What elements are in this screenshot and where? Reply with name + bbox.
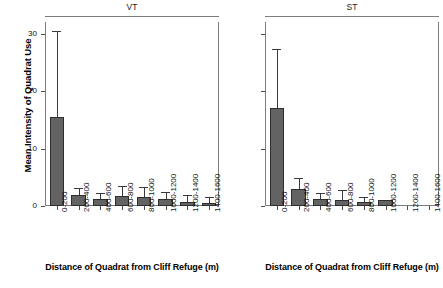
x-tick-800-1000 [364,206,365,210]
x-tick-label-400-600: 400-600 [324,183,333,212]
x-tick-200-400 [79,206,80,210]
y-tick-20 [41,91,45,92]
x-tick-600-800 [122,206,123,210]
panel-st-title: ST [265,2,439,12]
error-bar-stem [57,31,58,117]
error-bar-stem [342,190,343,199]
x-tick-label-1200-1400: 1200-1400 [411,174,420,212]
error-bar-stem [79,188,80,195]
x-tick-1000-1200 [386,206,387,210]
x-tick-600-800 [342,206,343,210]
x-tick-800-1000 [144,206,145,210]
x-tick-1200-1400 [407,206,408,210]
x-tick-1400-1600 [429,206,430,210]
y-axis-title: Mean Intensity of Quadrat Use [22,21,33,191]
error-bar-stem [299,178,300,189]
error-bar-stem [187,195,188,202]
x-tick-label-0-200: 0-200 [60,192,69,212]
y-tick-label-30: 30 [15,29,37,38]
y-tick-0 [261,206,265,207]
x-tick-label-400-600: 400-600 [104,183,113,212]
x-tick-1000-1200 [166,206,167,210]
y-tick-30 [41,34,45,35]
x-tick-label-1000-1200: 1000-1200 [169,174,178,212]
x-tick-0-200 [277,206,278,210]
x-tick-label-800-1000: 800-1000 [367,178,376,212]
x-axis-title-st: Distance of Quadrat from Cliff Refuge (m… [259,262,443,272]
error-bar-stem [122,186,123,196]
y-tick-label-0: 0 [15,201,37,210]
panel-vt-strip-rule [45,16,219,17]
y-tick-10 [261,149,265,150]
x-tick-label-200-400: 200-400 [82,183,91,212]
x-tick-label-800-1000: 800-1000 [147,178,156,212]
x-tick-label-600-800: 600-800 [346,183,355,212]
x-tick-400-600 [320,206,321,210]
x-tick-label-1000-1200: 1000-1200 [389,174,398,212]
x-tick-label-1400-1600: 1400-1600 [213,174,222,212]
chart-figure: Mean Intensity of Quadrat Use VT 0102030… [0,0,443,288]
error-bar-stem [277,49,278,108]
x-tick-label-1200-1400: 1200-1400 [191,174,200,212]
x-tick-1200-1400 [187,206,188,210]
panel-vt-plot-area: 01020300-200200-400400-600600-800800-100… [45,22,219,206]
x-tick-400-600 [100,206,101,210]
panel-vt-title: VT [45,2,219,12]
error-bar-cap [272,49,281,50]
error-bar-cap [52,31,61,32]
x-tick-label-1400-1600: 1400-1600 [433,174,442,212]
error-bar-stem [166,192,167,199]
y-tick-10 [41,149,45,150]
x-tick-1400-1600 [209,206,210,210]
x-tick-200-400 [299,206,300,210]
y-tick-0 [41,206,45,207]
error-bar-stem [144,187,145,197]
x-tick-label-0-200: 0-200 [280,192,289,212]
panel-st-strip-rule [265,16,439,17]
x-tick-label-600-800: 600-800 [126,183,135,212]
y-tick-20 [261,91,265,92]
x-tick-0-200 [57,206,58,210]
x-tick-label-200-400: 200-400 [302,183,311,212]
y-tick-30 [261,34,265,35]
y-tick-label-20: 20 [15,86,37,95]
y-tick-label-10: 10 [15,144,37,153]
panel-st-plot-area: 0-200200-400400-600600-800800-10001000-1… [265,22,439,206]
x-axis-title-vt: Distance of Quadrat from Cliff Refuge (m… [39,262,225,272]
error-bar-cap [294,178,303,179]
